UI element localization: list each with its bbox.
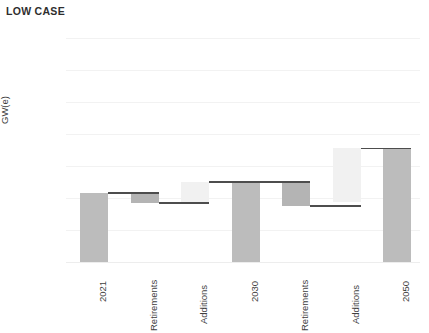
chart-root: LOW CASE GW(e) 350 300 250 200 150 100 5… <box>0 0 429 333</box>
x-axis-tick-2021: 2021 <box>97 281 108 302</box>
x-axis-tick-2050: 2050 <box>400 281 411 302</box>
x-axis-tick-group: 2021 Retirements Additions 2030 Retireme… <box>0 0 429 333</box>
x-axis-tick-additions-2: Additions <box>350 285 361 324</box>
x-axis-tick-additions-1: Additions <box>198 285 209 324</box>
x-axis-tick-retirements-1: Retirements <box>148 280 159 331</box>
x-axis-tick-retirements-2: Retirements <box>299 280 310 331</box>
x-axis-tick-2030: 2030 <box>249 281 260 302</box>
